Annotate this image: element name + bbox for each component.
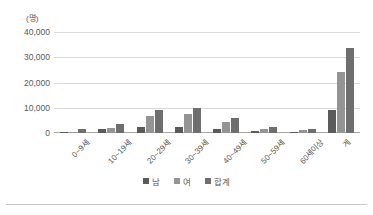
y-axis-tick-label: 10,000 (4, 103, 50, 113)
y-axis-tick-labels: 010,00020,00030,00040,000 (0, 32, 50, 133)
chart-legend: 남여합계 (0, 175, 373, 187)
bar[interactable] (308, 129, 316, 133)
legend-item[interactable]: 여 (174, 175, 191, 187)
bar[interactable] (60, 132, 68, 133)
bar[interactable] (328, 110, 336, 133)
bar[interactable] (269, 127, 277, 133)
plot-area (54, 32, 360, 133)
y-axis-tick-label: 0 (4, 128, 50, 138)
y-axis-unit-label: (명) (26, 12, 38, 23)
bar-groups (54, 32, 360, 133)
legend-label: 합계 (214, 175, 230, 187)
legend-swatch-icon (205, 178, 211, 184)
legend-item[interactable]: 합계 (205, 175, 230, 187)
legend-label: 남 (152, 175, 160, 187)
y-axis-tick-label: 20,000 (4, 78, 50, 88)
bottom-divider (6, 204, 367, 205)
bar-group (207, 32, 245, 133)
x-axis-label-cell: 0~9세 (54, 134, 92, 174)
legend-swatch-icon (174, 178, 180, 184)
bar-group (169, 32, 207, 133)
bar[interactable] (78, 129, 86, 133)
bar[interactable] (222, 122, 230, 133)
bar[interactable] (69, 132, 77, 134)
bar[interactable] (193, 108, 201, 133)
x-axis-label-cell: 60세이상 (284, 134, 322, 174)
bar-group (245, 32, 283, 133)
x-axis-label-cell: 20~29세 (131, 134, 169, 174)
bar-group (131, 32, 169, 133)
bar[interactable] (146, 116, 154, 133)
bar[interactable] (346, 48, 354, 133)
y-axis-tick-label: 30,000 (4, 52, 50, 62)
bar[interactable] (213, 129, 221, 133)
legend-item[interactable]: 남 (143, 175, 160, 187)
x-axis-tick-label: 0~9세 (69, 137, 91, 159)
legend-label: 여 (183, 175, 191, 187)
bar-chart: (명) 010,00020,00030,00040,000 0~9세10~19세… (0, 0, 373, 215)
y-axis-tick-label: 40,000 (4, 27, 50, 37)
bar[interactable] (155, 110, 163, 133)
bar-group (54, 32, 92, 133)
bar[interactable] (116, 124, 124, 133)
x-axis-label-cell: 계 (322, 134, 360, 174)
bar[interactable] (251, 131, 259, 133)
x-axis-label-cell: 10~19세 (92, 134, 130, 174)
bar-group (322, 32, 360, 133)
legend-swatch-icon (143, 178, 149, 184)
bar[interactable] (98, 129, 106, 133)
bar[interactable] (107, 128, 115, 133)
bar[interactable] (337, 72, 345, 133)
x-axis-label-cell: 50~59세 (245, 134, 283, 174)
bar[interactable] (231, 118, 239, 133)
x-axis-tick-label: 계 (339, 137, 352, 150)
bar-group (92, 32, 130, 133)
bar[interactable] (290, 132, 298, 133)
bar[interactable] (260, 129, 268, 133)
bar-group (284, 32, 322, 133)
bar[interactable] (299, 130, 307, 133)
x-axis-label-cell: 30~39세 (169, 134, 207, 174)
x-axis-label-cell: 40~49세 (207, 134, 245, 174)
x-axis-category-labels: 0~9세10~19세20~29세30~39세40~49세50~59세60세이상계 (54, 134, 360, 174)
bar[interactable] (175, 127, 183, 133)
bar[interactable] (137, 127, 145, 133)
bar[interactable] (184, 114, 192, 133)
